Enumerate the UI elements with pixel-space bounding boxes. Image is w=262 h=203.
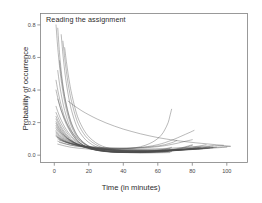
y-tick-label: 0.6 [19, 54, 36, 60]
x-tick-label: 100 [222, 168, 231, 174]
y-tick-label: 0.8 [19, 22, 36, 28]
y-axis-ticks [37, 25, 40, 155]
x-tick-label: 80 [189, 168, 195, 174]
chart-figure: Reading the assignment Time (in minutes)… [0, 0, 262, 203]
x-axis-ticks [54, 163, 227, 166]
x-axis-label: Time (in minutes) [0, 183, 262, 192]
x-tick-label: 60 [155, 168, 161, 174]
y-tick-label: 0.4 [19, 87, 36, 93]
plot-frame [41, 14, 248, 163]
x-tick-label: 0 [53, 168, 56, 174]
x-tick-label: 40 [120, 168, 126, 174]
y-tick-label: 0.2 [19, 120, 36, 126]
y-tick-label: 0.0 [19, 152, 36, 158]
x-tick-label: 20 [86, 168, 92, 174]
chart-title: Reading the assignment [46, 15, 126, 24]
